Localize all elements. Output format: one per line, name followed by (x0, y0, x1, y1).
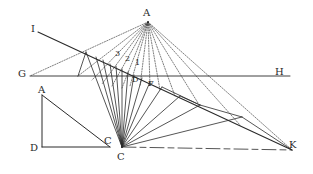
label-g: G (18, 69, 26, 79)
label-a-top: A (143, 8, 150, 18)
label-1: 1 (135, 59, 140, 67)
perspective-diagram: A I G H 3 2 1 D F A D C C K (0, 0, 313, 174)
label-f: F (148, 80, 154, 88)
label-h: H (275, 67, 284, 77)
label-c-main: C (117, 152, 125, 162)
dotted-rays-from-a (30, 22, 292, 150)
label-c-small: C (104, 136, 112, 146)
label-d-mid: D (132, 76, 138, 84)
label-k: K (289, 140, 296, 150)
diagram-canvas (0, 0, 313, 174)
label-a-left: A (38, 85, 45, 95)
label-i: I (31, 24, 35, 34)
small-triangle (42, 95, 110, 147)
label-d-left: D (30, 143, 38, 153)
label-3: 3 (115, 50, 120, 58)
label-2: 2 (125, 55, 130, 63)
